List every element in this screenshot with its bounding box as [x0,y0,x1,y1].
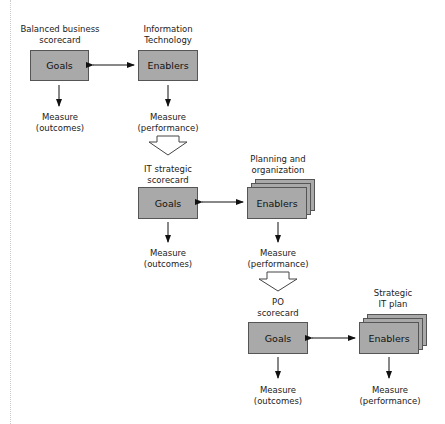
block-arrow-l2-to-l3 [259,272,297,291]
connector-arrows [0,0,445,424]
block-arrow-l1-to-l2 [149,136,187,155]
